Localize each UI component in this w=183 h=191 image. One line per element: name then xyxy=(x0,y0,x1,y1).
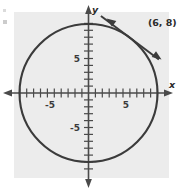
x-tick-label-positive-five: 5 xyxy=(123,100,129,110)
figure-container: -5 5 5 -5 x y (6, 8) xyxy=(0,0,183,191)
y-axis-arrow-down xyxy=(85,179,92,188)
coordinate-plane-diagram: -5 5 5 -5 x y (6, 8) xyxy=(0,0,183,191)
scan-artifact-marks xyxy=(3,9,7,24)
tangent-point-label: (6, 8) xyxy=(148,17,177,28)
y-axis-arrow-up xyxy=(85,5,92,14)
x-tick-label-negative-five: -5 xyxy=(45,100,55,110)
y-tick-label-negative-five: -5 xyxy=(70,123,80,133)
x-axis-arrow-left xyxy=(3,90,12,97)
y-tick-label-positive-five: 5 xyxy=(74,54,80,64)
y-axis-label: y xyxy=(92,4,99,15)
x-axis-label: x xyxy=(168,79,176,90)
